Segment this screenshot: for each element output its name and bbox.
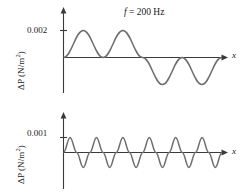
y-axis-label-close-top: ) xyxy=(16,51,26,54)
y-axis-label-exponent-bottom: 2 xyxy=(14,148,21,151)
sound-pressure-waveform-figure: ΔP (N/m2) 0.002 x f = 200 Hz ΔP (N/m2) 0… xyxy=(0,0,242,193)
y-axis-label-top: ΔP (N/m2) xyxy=(14,51,26,90)
x-axis-arrow-bottom xyxy=(222,150,229,156)
y-axis-label-text-bottom: ΔP (N/m xyxy=(16,152,26,184)
y-axis-label-close-bottom: ) xyxy=(16,145,26,148)
y-axis-arrow-top xyxy=(61,7,67,14)
y-axis-label-text-top: ΔP (N/m xyxy=(16,58,26,90)
frequency-annotation: f = 200 Hz xyxy=(124,7,164,17)
x-axis-label-bottom: x xyxy=(232,146,236,156)
chart-panel-bottom: ΔP (N/m2) 0.001 x xyxy=(0,96,242,193)
y-axis-label-exponent-top: 2 xyxy=(14,54,21,57)
chart-svg-top xyxy=(0,0,242,97)
y-axis-label-bottom: ΔP (N/m2) xyxy=(14,145,26,184)
y-tick-label-top: 0.002 xyxy=(27,25,47,35)
y-axis-arrow-bottom xyxy=(61,112,67,119)
x-axis-arrow-top xyxy=(222,55,229,61)
chart-panel-top: ΔP (N/m2) 0.002 x f = 200 Hz xyxy=(0,0,242,97)
chart-svg-bottom xyxy=(0,96,242,193)
y-tick-label-bottom: 0.001 xyxy=(27,128,47,138)
frequency-value: = 200 Hz xyxy=(127,7,165,17)
x-axis-label-top: x xyxy=(232,50,236,60)
